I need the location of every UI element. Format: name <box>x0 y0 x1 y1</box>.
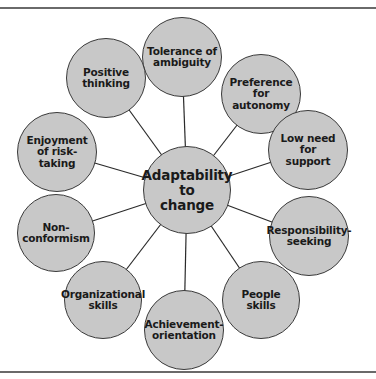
node-responsibility: Responsibility- seeking <box>269 196 349 276</box>
node-label: Responsibility- seeking <box>266 225 351 248</box>
node-label: Achievement- orientation <box>144 319 223 342</box>
node-people: People skills <box>222 261 300 339</box>
node-label: Non- conformism <box>22 222 90 245</box>
node-label: Organizational skills <box>61 289 145 312</box>
node-label: Low need for support <box>281 133 336 168</box>
node-positive: Positive thinking <box>66 38 146 118</box>
node-label: Tolerance of ambiguity <box>147 46 217 69</box>
node-organizational: Organizational skills <box>64 261 142 339</box>
hub-label: Adaptability to change <box>142 168 233 213</box>
node-low-need: Low need for support <box>268 110 348 190</box>
node-non-conformism: Non- conformism <box>17 194 95 272</box>
node-label: People skills <box>241 289 280 312</box>
node-tolerance: Tolerance of ambiguity <box>142 17 222 97</box>
node-label: Positive thinking <box>82 67 130 90</box>
node-achievement: Achievement- orientation <box>144 290 224 370</box>
node-enjoyment: Enjoyment of risk- taking <box>17 112 97 192</box>
node-label: Enjoyment of risk- taking <box>26 135 87 170</box>
hub-node-adaptability: Adaptability to change <box>143 146 231 234</box>
node-label: Preference for autonomy <box>222 77 300 112</box>
